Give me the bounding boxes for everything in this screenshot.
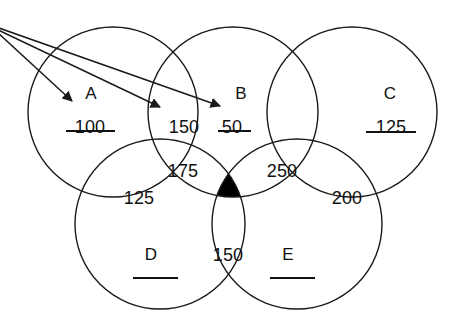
region-a-b-d: 175 <box>168 161 199 182</box>
set-label-d: D <box>145 245 157 265</box>
venn-diagram-svg <box>0 0 460 335</box>
region-a-d: 125 <box>124 188 155 209</box>
region-b-only-underline <box>218 130 251 132</box>
region-d-e: 150 <box>213 245 244 266</box>
set-label-a: A <box>85 84 97 104</box>
venn-circle-outlines <box>28 27 437 309</box>
blank-answer-line-d[interactable] <box>133 277 178 279</box>
region-a-b: 150 <box>169 117 200 138</box>
venn-diagram-canvas: ABCDE 10015050125175250125200150 <box>0 0 460 335</box>
region-a-only-underline <box>66 130 115 132</box>
blank-answer-line-e[interactable] <box>270 277 315 279</box>
set-label-e: E <box>282 245 294 265</box>
arrow-group <box>0 27 220 107</box>
set-label-b: B <box>235 84 247 104</box>
venn-circle-d[interactable] <box>75 139 245 309</box>
region-c-only-underline <box>366 131 416 133</box>
region-a-only: 100 <box>75 117 106 138</box>
set-label-c: C <box>384 84 396 104</box>
arrow-to-region-b-only <box>0 27 220 106</box>
region-c-e: 200 <box>332 188 363 209</box>
region-b-c-e: 250 <box>267 161 298 182</box>
region-c-only: 125 <box>376 117 407 138</box>
region-b-only: 50 <box>222 117 242 138</box>
arrow-to-region-a-b <box>0 29 160 107</box>
